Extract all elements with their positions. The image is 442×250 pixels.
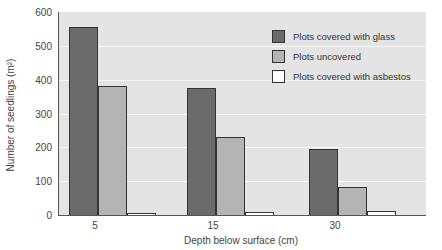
y-tick-label: 600 bbox=[22, 7, 52, 18]
x-tick-label: 15 bbox=[207, 220, 218, 231]
y-tick-label: 400 bbox=[22, 74, 52, 85]
x-tick-label: 30 bbox=[329, 220, 340, 231]
legend-label: Plots covered with glass bbox=[293, 31, 395, 42]
y-tick-label: 300 bbox=[22, 108, 52, 119]
legend-swatch bbox=[272, 30, 285, 43]
bar-plots-uncovered-5 bbox=[98, 86, 127, 215]
bar-plots-covered-with-asbestos-15 bbox=[245, 212, 274, 215]
legend-item: Plots covered with glass bbox=[272, 26, 411, 46]
bar-plots-covered-with-asbestos-5 bbox=[127, 213, 156, 215]
legend-label: Plots uncovered bbox=[293, 51, 361, 62]
legend-item: Plots covered with asbestos bbox=[272, 66, 411, 86]
y-tick-label: 100 bbox=[22, 176, 52, 187]
bar-plots-covered-with-glass-5 bbox=[69, 27, 98, 215]
legend: Plots covered with glassPlots uncoveredP… bbox=[272, 26, 411, 86]
y-tick-label: 0 bbox=[22, 210, 52, 221]
y-tick-label: 500 bbox=[22, 40, 52, 51]
bar-plots-uncovered-30 bbox=[338, 187, 367, 215]
legend-swatch bbox=[272, 70, 285, 83]
legend-item: Plots uncovered bbox=[272, 46, 411, 66]
legend-label: Plots covered with asbestos bbox=[293, 71, 411, 82]
bar-plots-covered-with-asbestos-30 bbox=[367, 211, 396, 215]
x-axis-label: Depth below surface (cm) bbox=[184, 235, 298, 246]
y-tick-label: 200 bbox=[22, 142, 52, 153]
legend-swatch bbox=[272, 50, 285, 63]
bar-plots-covered-with-glass-30 bbox=[309, 149, 338, 215]
y-axis-label: Number of seedlings (m²) bbox=[5, 59, 16, 172]
x-tick-label: 5 bbox=[92, 220, 98, 231]
bar-plots-uncovered-15 bbox=[216, 137, 245, 215]
bar-plots-covered-with-glass-15 bbox=[187, 88, 216, 215]
